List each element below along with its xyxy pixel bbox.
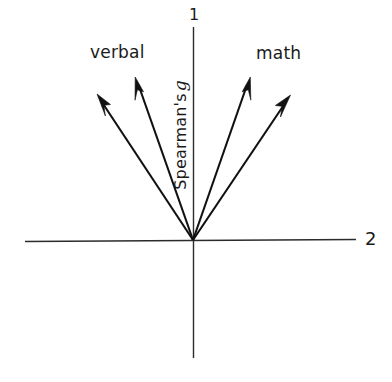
vector-math-inner-shaft [193,85,247,240]
spearman-prefix-text: Spearman's [171,93,190,190]
vector-label-verbal: verbal [90,42,145,62]
vector-math-inner [193,77,251,240]
axis-label-1: 1 [189,5,199,24]
vector-label-math: math [256,43,301,63]
spearman-factor-g-text: g [170,80,190,93]
figure-canvas: verbal math 1 2 Spearman'sg [0,0,392,382]
axis-label-2: 2 [365,228,376,249]
horizontal-axis-line [25,240,356,242]
axis-label-spearmans-g: Spearman'sg [172,70,188,200]
axes-group [25,27,356,358]
vector-math-outer-shaft [193,103,286,241]
vector-math-outer [193,95,291,240]
vector-diagram-svg [0,0,392,382]
